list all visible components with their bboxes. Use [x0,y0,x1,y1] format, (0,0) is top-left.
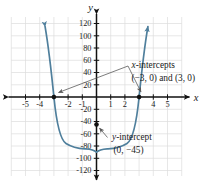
x-tick-label: 5 [165,100,169,109]
y-tick-label: 20 [83,81,91,90]
y-tick-label: 100 [79,32,91,41]
y-tick-label: 60 [83,56,91,65]
x-intercepts-leader-lines [59,66,142,93]
coordinate-plane-svg: 120 100 80 60 40 20 -20 -40 -60 -80 -100… [0,0,213,186]
x-tick-label: 1 [109,100,113,109]
y-tick-label: -40 [80,117,91,126]
leader-to-y-intercept [100,128,108,138]
x-intercepts-annotation-line2: (−3, 0) and (3, 0) [132,73,196,84]
x-tick-label: 4 [151,100,156,109]
y-intercept-point [94,122,99,127]
x-tick-label: -2 [65,100,72,109]
y-tick-label: -60 [80,130,91,139]
x-tick-label: -4 [36,100,44,109]
x-tick-label: 2 [123,100,127,109]
y-tick-label: 40 [83,68,91,77]
y-axis-label: y [87,2,93,13]
y-intercept-annotation-line2: (0, −45) [114,145,144,156]
leader-to-left-x-intercept [59,66,129,93]
x-tick-label: -5 [22,100,29,109]
x-intercept-right-point [137,95,142,100]
y-tick-label: -120 [76,166,91,175]
x-intercepts-annotation: x-intercepts (−3, 0) and (3, 0) [131,60,196,84]
x-axis-label: x [193,92,199,103]
y-tick-label: 80 [83,44,91,53]
axes [9,14,190,180]
y-tick-label: 120 [79,19,91,28]
y-intercept-annotation-line1: y-intercept [111,132,152,142]
graph-figure: 120 100 80 60 40 20 -20 -40 -60 -80 -100… [0,0,213,186]
y-intercept-annotation: y-intercept (0, −45) [111,132,152,156]
y-tick-label: -100 [76,154,91,163]
x-intercepts-annotation-line1: x-intercepts [131,60,176,70]
x-intercepts-annotation-suffix: -intercepts [136,60,176,70]
y-intercept-annotation-suffix: -intercept [116,132,152,142]
x-intercept-left-point [52,95,57,100]
x-tick-label: -1 [79,100,86,109]
